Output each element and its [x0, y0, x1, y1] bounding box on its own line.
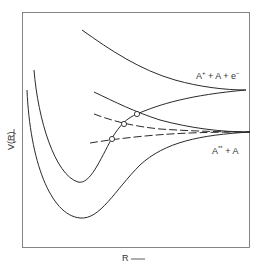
curve-repulsive-middle — [94, 92, 250, 132]
x-axis-label: R — [122, 253, 129, 263]
asymptote-label-ion: A+ + A + e− — [196, 70, 240, 81]
curve-repulsive-upper — [82, 30, 246, 90]
asymptote-label-excited: A** + A — [212, 145, 238, 156]
crossing-point — [109, 136, 114, 141]
crossing-point — [121, 121, 126, 126]
y-axis-label: V(R) — [6, 132, 16, 151]
potential-energy-diagram — [0, 0, 263, 269]
crossing-point — [134, 111, 139, 116]
